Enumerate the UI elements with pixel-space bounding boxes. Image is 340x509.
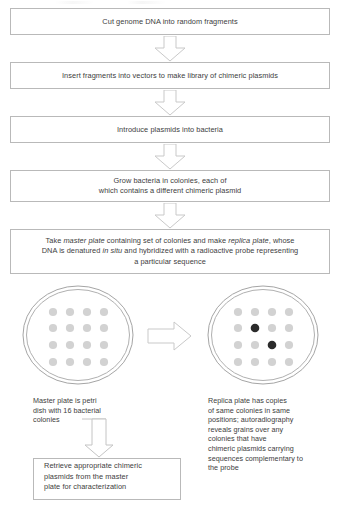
process-box-insert-fragments: Insert fragments into vectors to make li… [10, 62, 330, 89]
figure-canvas: Cut genome DNA into random fragments Ins… [0, 0, 340, 509]
replica-plate-dish [205, 283, 321, 387]
replica-plate-caption: Replica plate has copies of same colonie… [208, 396, 336, 473]
process-box-grow-bacteria: Grow bacteria in colonies, each of which… [10, 170, 330, 202]
process-box-retrieve-plasmids-line2: plasmids from the master [44, 472, 128, 483]
down-arrow-2 [153, 90, 187, 116]
mr-em-replica: replica [228, 236, 250, 245]
down-arrow-4 [153, 203, 187, 229]
thin-down-arrow-to-retrieve [80, 417, 120, 459]
down-arrow-3 [153, 144, 187, 170]
process-box-master-replica: Take master plate containing set of colo… [10, 229, 330, 274]
right-arrow-master-to-replica [147, 320, 193, 352]
mr-em-in-situ: in situ [103, 246, 123, 255]
process-box-introduce-plasmids-label: Introduce plasmids into bacteria [117, 125, 223, 135]
replica-plate-caption-line1: Replica plate has copies [208, 396, 287, 405]
process-box-grow-bacteria-line1: Grow bacteria in colonies, each of [113, 176, 226, 187]
replica-plate-caption-line8: the probe [208, 463, 239, 472]
process-box-grow-bacteria-line2: which contains a different chimeric plas… [99, 186, 242, 197]
process-box-retrieve-plasmids: Retrieve appropriate chimeric plasmids f… [33, 458, 181, 500]
replica-plate-caption-line6: chimeric plasmids carrying [208, 444, 294, 453]
replica-plate-caption-line5: colonies that have [208, 434, 267, 443]
master-plate-caption-line1: Master plate is petri [33, 396, 97, 405]
mr-em-master-plate: master plate [63, 236, 104, 245]
process-box-cut-genome: Cut genome DNA into random fragments [10, 8, 330, 35]
process-box-cut-genome-label: Cut genome DNA into random fragments [102, 17, 237, 27]
process-box-retrieve-plasmids-line1: Retrieve appropriate chimeric [44, 461, 142, 472]
mr-em-plate: plate [252, 236, 268, 245]
replica-plate-caption-line7: sequences complementary to [208, 454, 303, 463]
replica-plate-caption-line2: of same colonies in same [208, 406, 290, 415]
master-plate-caption-line3: colonies [33, 415, 60, 424]
scan-artifact [55, 1, 205, 4]
mr-text-part5: and hybridized with a radioactive probe … [122, 246, 298, 266]
down-arrow-1 [153, 36, 187, 62]
master-plate-caption-line2: dish with 16 bacterial [33, 406, 101, 415]
mr-text-part2: containing set of colonies and make [105, 236, 228, 245]
replica-plate-caption-line3: positions; autoradiography [208, 415, 293, 424]
master-plate-dish [20, 283, 136, 387]
process-box-introduce-plasmids: Introduce plasmids into bacteria [10, 116, 330, 143]
process-box-master-replica-label: Take master plate containing set of colo… [39, 236, 301, 268]
mr-text-part1: Take [45, 236, 63, 245]
replica-plate-caption-line4: reveals grains over any [208, 425, 283, 434]
process-box-insert-fragments-label: Insert fragments into vectors to make li… [62, 71, 278, 81]
process-box-retrieve-plasmids-line3: plate for characterization [44, 482, 126, 493]
